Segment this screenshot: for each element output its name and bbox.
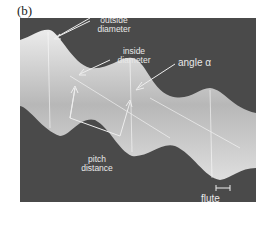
flute-width-label: flute width xyxy=(201,194,241,202)
inside-diameter-label: inside diameter xyxy=(112,47,156,65)
pitch-distance-label: pitch distance xyxy=(72,155,122,173)
outside-diameter-label: outside diameter xyxy=(92,18,136,34)
panel-label: (b) xyxy=(17,3,32,19)
angle-alpha-label: angle α xyxy=(178,58,228,67)
sem-micrograph: outside diameter inside diameter angle α… xyxy=(20,18,256,202)
